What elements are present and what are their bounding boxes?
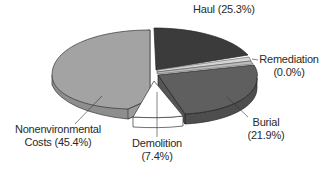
label-burial-name: Burial xyxy=(244,116,288,129)
label-demolition: Demolition (7.4%) xyxy=(125,137,189,163)
label-nonenvironmental: Nonenvironmental Costs (45.4%) xyxy=(13,123,103,149)
label-demolition-name: Demolition xyxy=(125,137,189,150)
label-nonenvironmental-name: Nonenvironmental xyxy=(13,123,103,136)
label-remediation: Remediation (0.0%) xyxy=(258,53,320,79)
label-burial: Burial (21.9%) xyxy=(244,116,288,142)
label-burial-value: (21.9%) xyxy=(244,129,288,142)
label-remediation-value: (0.0%) xyxy=(258,66,320,79)
label-haul: Haul (25.3%) xyxy=(193,3,255,16)
label-nonenvironmental-value: Costs (45.4%) xyxy=(13,136,103,149)
slice-nonenvironmental xyxy=(52,30,150,119)
label-demolition-value: (7.4%) xyxy=(125,150,189,163)
label-remediation-name: Remediation xyxy=(258,53,320,66)
